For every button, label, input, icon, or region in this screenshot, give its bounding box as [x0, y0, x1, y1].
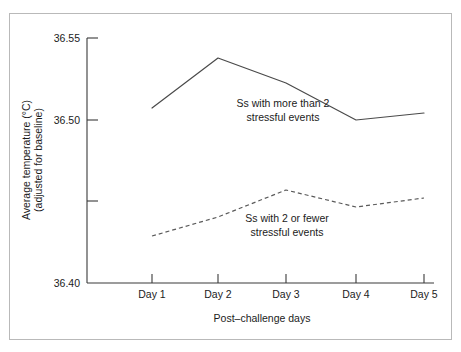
- annotation-more-than-2-line-1: Ss with more than 2: [237, 97, 330, 109]
- figure-container: 36.55 36.50 36.40 Day 1 Day 2 Day 3 Day …: [0, 0, 461, 352]
- y-tick-label-3: 36.55: [54, 32, 80, 44]
- y-tick-label-0: 36.40: [54, 277, 80, 289]
- annotation-2-or-fewer-line-1: Ss with 2 or fewer: [245, 212, 329, 224]
- x-tick-label-day-5: Day 5: [410, 288, 438, 300]
- x-tick-label-day-4: Day 4: [342, 288, 370, 300]
- x-tick-label-day-3: Day 3: [272, 288, 300, 300]
- annotation-more-than-2-line-2: stressful events: [247, 111, 320, 123]
- x-tick-label-day-2: Day 2: [204, 288, 232, 300]
- y-axis-title-line-1: Average temperature (°C): [20, 100, 32, 220]
- y-tick-label-2: 36.50: [54, 114, 80, 126]
- annotation-2-or-fewer-line-2: stressful events: [251, 226, 324, 238]
- y-axis-title-line-2: (adjusted for baseline): [32, 108, 44, 212]
- line-chart: 36.55 36.50 36.40 Day 1 Day 2 Day 3 Day …: [0, 0, 461, 352]
- x-tick-label-day-1: Day 1: [138, 288, 166, 300]
- x-axis-title: Post–challenge days: [214, 312, 311, 324]
